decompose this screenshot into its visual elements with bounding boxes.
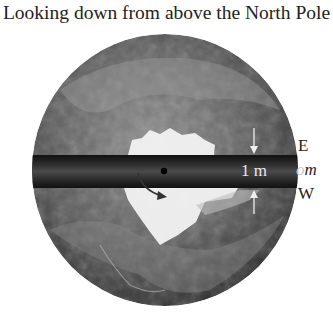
label-mass: om — [296, 161, 317, 178]
label-east: E — [298, 137, 308, 154]
north-pole-dot — [161, 168, 167, 174]
label-mass-ghost: o — [296, 160, 305, 179]
label-west: W — [298, 185, 314, 202]
globe-diagram — [0, 0, 333, 315]
band-width-label: 1 m — [241, 161, 267, 181]
label-mass-m: m — [305, 160, 317, 179]
